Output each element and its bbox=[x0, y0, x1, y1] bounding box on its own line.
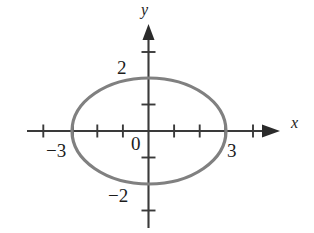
ellipse-graph-figure: 2 −2 −3 3 0 y x bbox=[0, 0, 314, 233]
y-axis-tick-label-minus-2: −2 bbox=[108, 186, 128, 205]
x-axis bbox=[27, 125, 280, 138]
coordinate-plane-svg bbox=[0, 0, 314, 233]
y-axis bbox=[143, 24, 155, 228]
x-axis-tick-label-minus-3: −3 bbox=[46, 141, 66, 160]
x-axis-arrowhead bbox=[262, 125, 280, 138]
y-axis-name-label: y bbox=[141, 2, 148, 18]
y-axis-arrowhead bbox=[143, 24, 155, 40]
x-axis-name-label: x bbox=[291, 115, 298, 131]
y-axis-tick-label-2: 2 bbox=[117, 58, 127, 77]
origin-label: 0 bbox=[131, 134, 141, 153]
x-axis-tick-label-3: 3 bbox=[227, 141, 237, 160]
